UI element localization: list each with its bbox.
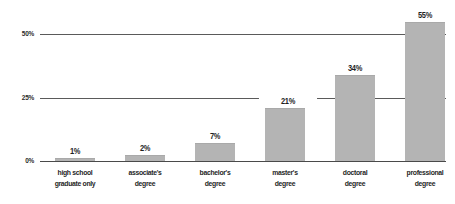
xlabel-high-school-line1: high school — [58, 168, 93, 177]
bar-value-associates: 2% — [116, 143, 174, 153]
xlabel-masters-line2: degree — [255, 178, 314, 189]
xlabel-associates-line2: degree — [115, 178, 174, 189]
xlabel-associates-line1: associate's — [128, 168, 161, 177]
xlabel-professional-line2: degree — [395, 178, 454, 189]
xlabel-bachelors: bachelor's degree — [185, 167, 244, 189]
xlabel-bachelors-line2: degree — [185, 178, 244, 189]
bar-bachelors — [195, 143, 235, 161]
plot-area: 50% 25% 0% 1% 2% 7% 21% — [0, 0, 455, 204]
xlabel-doctoral-line2: degree — [325, 178, 384, 189]
bar-high-school — [55, 158, 95, 161]
bar-value-bachelors: 7% — [186, 131, 244, 141]
xlabel-bachelors-line1: bachelor's — [200, 168, 231, 177]
xlabel-high-school: high school graduate only — [45, 167, 104, 189]
bar-doctoral — [335, 75, 375, 161]
xlabel-doctoral-line1: doctoral — [343, 168, 367, 177]
bar-value-high-school: 1% — [46, 146, 104, 156]
bar-masters — [265, 108, 305, 161]
xlabel-professional-line1: professional — [407, 168, 444, 177]
xlabel-masters: master's degree — [255, 167, 314, 189]
bar-associates — [125, 155, 165, 161]
bar-professional — [405, 22, 445, 161]
bar-value-professional: 55% — [396, 10, 454, 20]
bar-value-masters: 21% — [259, 96, 317, 106]
xlabel-associates: associate's degree — [115, 167, 174, 189]
xlabel-high-school-line2: graduate only — [45, 178, 104, 189]
bar-value-doctoral: 34% — [326, 63, 384, 73]
xlabel-masters-line1: master's — [272, 168, 297, 177]
xlabel-professional: professional degree — [395, 167, 454, 189]
xlabel-doctoral: doctoral degree — [325, 167, 384, 189]
bar-chart: 50% 25% 0% 1% 2% 7% 21% — [0, 0, 455, 204]
